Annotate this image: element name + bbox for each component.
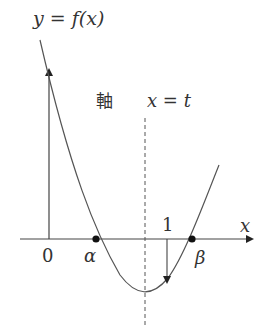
tick-one-label: 1	[162, 214, 173, 235]
root-beta-label: β	[194, 247, 205, 268]
root-alpha-label: α	[84, 245, 96, 266]
x-axis-label: x	[240, 215, 250, 236]
origin-label: 0	[42, 245, 53, 266]
root-beta-point	[188, 235, 195, 242]
quadratic-graph: y = f(x) 軸 x = t x 0 1 α β	[0, 0, 265, 329]
root-alpha-point	[92, 235, 99, 242]
axis-word-label: 軸	[96, 91, 113, 111]
function-label: y = f(x)	[32, 7, 104, 29]
axis-equation-label: x = t	[147, 90, 192, 111]
parabola-curve	[40, 40, 219, 292]
